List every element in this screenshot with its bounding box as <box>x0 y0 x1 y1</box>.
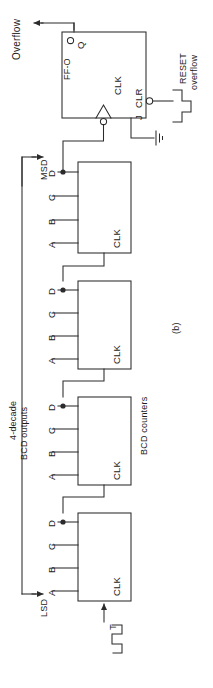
counter-1-clk-label: CLK <box>112 229 122 248</box>
clk-inversion-bubble <box>100 118 106 124</box>
overflow-output-wire <box>41 23 74 30</box>
counter-2-label-B: B <box>47 334 57 341</box>
reset-label-line1: RESET <box>179 53 188 84</box>
counter-3-label-B: B <box>47 450 57 457</box>
bus-bracket-top <box>22 157 36 186</box>
ff-clk-from-msd-wire <box>63 125 104 172</box>
counter-2-body <box>78 281 131 369</box>
counter-3-clk-label: CLK <box>112 461 122 480</box>
bus-label-line2: BCD outputs <box>20 407 29 460</box>
j-pin-ground-wire <box>131 118 154 138</box>
counter-1-label-A: A <box>47 241 57 248</box>
clk-dynamic-triangle <box>96 105 111 118</box>
lsd-label: LSD <box>40 599 49 617</box>
counter-3-label-C: C <box>47 427 57 434</box>
counter-4-D-junction-dot <box>60 519 65 524</box>
reset-overflow-waveform <box>173 90 191 122</box>
counter-1-body <box>78 162 131 253</box>
counter-4-label-B: B <box>47 566 57 573</box>
counter-2-D-junction-dot <box>60 287 65 292</box>
q-pin-label: Q <box>76 41 86 49</box>
counter-3-body <box>78 397 131 485</box>
bus-label-line1: 4-decade <box>9 401 18 440</box>
overflow-output-label: Overflow <box>12 19 22 60</box>
counter-4-clk-label: CLK <box>112 577 122 596</box>
schematic-canvas <box>0 0 213 688</box>
t-clock-label: T <box>108 624 118 630</box>
flipflop-name-label: FF-O <box>63 58 72 80</box>
counter-3-D-junction-dot <box>60 403 65 408</box>
j-pin-label: J <box>134 115 144 120</box>
counter-4-label-A: A <box>47 589 57 596</box>
cascade-wire-4-to-3 <box>63 485 104 513</box>
cascade-wire-3-to-2 <box>63 369 104 397</box>
clr-inversion-bubble <box>146 98 152 104</box>
counter-1-D-junction-dot <box>60 169 65 174</box>
counter-1-label-B: B <box>47 218 57 225</box>
counter-2-clk-label: CLK <box>112 345 122 364</box>
counter-2-label-C: C <box>47 311 57 318</box>
counter-4-label-D: D <box>47 520 57 527</box>
counter-2-label-A: A <box>47 357 57 364</box>
circuit-diagram-figure: Overflow FF-O Q CLK J CLR RESET overflow… <box>0 0 213 688</box>
bcd-counters-label: BCD counters <box>140 397 149 455</box>
counter-4-label-C: C <box>47 543 57 550</box>
clr-pin-label: CLR <box>134 88 144 108</box>
reset-label-line2: overflow <box>190 55 199 90</box>
counter-3-label-D: D <box>47 404 57 411</box>
counter-1-label-C: C <box>47 194 57 201</box>
counter-2-label-D: D <box>47 288 57 295</box>
cascade-wire-2-to-1 <box>63 253 104 281</box>
counter-3-label-A: A <box>47 473 57 480</box>
q-output-bubble <box>67 37 73 43</box>
counter-1-label-D: D <box>47 170 57 177</box>
figure-caption: (b) <box>172 322 181 334</box>
ff-clk-pin-label: CLK <box>113 76 123 95</box>
counter-4-body <box>78 513 131 601</box>
